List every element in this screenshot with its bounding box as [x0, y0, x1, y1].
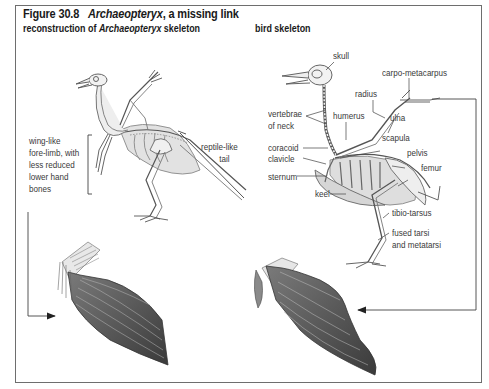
- vertebrae-leader: [306, 110, 326, 124]
- archaeopteryx-wing: [58, 242, 168, 365]
- label-fused-tarsi: fused tarsi and metatarsi: [392, 227, 441, 251]
- tibio-tarsus-leader: [383, 213, 389, 218]
- label-carpo-metacarpus: carpo-metacarpus: [382, 67, 447, 79]
- label-clavicle: clavicle: [268, 153, 294, 165]
- label-pelvis: pelvis: [407, 147, 428, 159]
- label-radius: radius: [355, 88, 377, 100]
- label-femur: femur: [421, 162, 442, 174]
- label-reptile-tail: reptile-like tail: [201, 141, 238, 165]
- label-scapula: scapula: [382, 132, 410, 144]
- label-tibio-tarsus: tibio-tarsus: [392, 207, 431, 219]
- label-ulna: ulna: [390, 112, 405, 124]
- bird-wing: [254, 258, 376, 375]
- left-connector-arrow: [28, 212, 55, 316]
- radius-leader: [373, 100, 385, 118]
- label-vertebrae-of-neck: vertebrae of neck: [268, 108, 302, 132]
- label-sternum: sternum: [268, 171, 297, 183]
- clavicle-leader: [303, 158, 326, 164]
- label-skull: skull: [333, 50, 349, 62]
- label-humerus: humerus: [333, 110, 364, 122]
- label-forelimb: wing-like fore-limb, with less reduced l…: [29, 135, 79, 195]
- forelimb-bracket: [88, 135, 92, 194]
- label-keel: keel: [315, 188, 330, 200]
- fused-tarsi-leader: [378, 233, 389, 240]
